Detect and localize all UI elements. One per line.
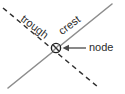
wave-node-diagram: trough crest node xyxy=(0,0,125,94)
node-label: node xyxy=(89,42,113,53)
arrow-left-icon xyxy=(63,45,70,51)
